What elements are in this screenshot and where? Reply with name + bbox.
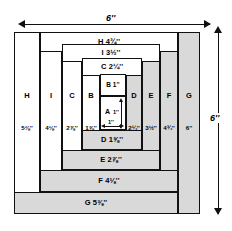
piece-B-top-letter: B: [106, 81, 111, 88]
piece-D-bottom-strip: D 1⅝'': [82, 130, 142, 150]
piece-G-bottom-label: G 5⅜'': [85, 199, 108, 207]
piece-G-bottom-measure: 5⅜'': [93, 198, 107, 207]
piece-E-bottom-strip: E 2⅞'': [62, 150, 160, 170]
piece-G-bottom-strip: G 5⅜'': [14, 192, 178, 214]
piece-I-top-label: I 3½'': [102, 49, 121, 57]
piece-F-bottom-measure: 4⅛'': [105, 176, 119, 185]
piece-B-top-measure: 1'': [113, 81, 120, 88]
piece-D-bottom-measure: 1⅝'': [109, 135, 123, 144]
center-width-arrowhead-left: [101, 124, 105, 128]
piece-I-left-letter: I: [50, 92, 52, 100]
piece-B-left-letter: B: [88, 92, 94, 100]
piece-I-top-letter: I: [102, 48, 104, 57]
piece-B-top-label: B 1'': [106, 82, 120, 88]
piece-E-right-letter: E: [148, 92, 153, 100]
piece-C-left-letter: C: [69, 92, 75, 100]
piece-D-bottom-letter: D: [101, 135, 107, 144]
piece-D-right-letter: D: [131, 92, 137, 100]
piece-B-top-strip: B 1'': [100, 74, 126, 96]
top-dimension-arrowhead-right: [204, 20, 211, 28]
log-cabin-block-diagram: 6'' 6'' H 5⅜'' I 4⅛'' C 2⅞'' B 1⅝'' G 6'…: [0, 0, 232, 231]
piece-E-bottom-measure: 2⅞'': [107, 155, 121, 164]
right-dimension-arrowhead-up: [214, 26, 222, 33]
piece-I-top-measure: 3½'': [106, 48, 120, 57]
piece-C-top-measure: 2¼'': [109, 62, 123, 71]
piece-D-bottom-label: D 1⅝'': [101, 136, 123, 144]
piece-F-right-letter: F: [167, 92, 172, 100]
center-width-arrowhead-right: [120, 124, 124, 128]
piece-E-bottom-label: E 2⅞'': [100, 156, 122, 164]
top-dimension-arrowhead-left: [18, 20, 25, 28]
piece-H-left-column: H 5⅜'': [14, 32, 40, 214]
center-height-label: 1'': [113, 110, 119, 116]
piece-F-bottom-label: F 4⅛'': [98, 177, 119, 185]
piece-G-right-measure: 6'': [186, 125, 192, 131]
piece-F-right-measure: 4¾'': [163, 125, 175, 131]
piece-G-right-column: G 6'': [178, 32, 200, 214]
center-height-arrowhead-up: [119, 98, 123, 102]
piece-C-top-label: C 2¼'': [101, 63, 123, 71]
piece-F-bottom-strip: F 4⅛'': [40, 170, 178, 192]
piece-G-bottom-letter: G: [85, 198, 91, 207]
piece-C-top-letter: C: [101, 62, 107, 71]
top-dimension-line: [24, 24, 210, 25]
piece-I-left-measure: 4⅛'': [45, 125, 57, 131]
piece-A-letter: A: [105, 108, 110, 115]
piece-E-right-measure: 3½'': [145, 125, 157, 131]
piece-H-left-letter: H: [24, 92, 30, 100]
center-height-arrow-line: [121, 101, 122, 125]
overall-height-label: 6'': [208, 113, 221, 123]
piece-C-left-measure: 2⅞'': [66, 125, 78, 131]
overall-width-label: 6'': [104, 13, 117, 23]
piece-E-bottom-letter: E: [100, 155, 105, 164]
piece-G-right-letter: G: [186, 92, 192, 100]
piece-F-bottom-letter: F: [98, 176, 103, 185]
right-dimension-arrowhead-down: [214, 208, 222, 215]
piece-H-left-measure: 5⅜'': [21, 125, 33, 131]
center-width-label: 1'': [108, 120, 114, 126]
right-dimension-line: [218, 32, 219, 214]
